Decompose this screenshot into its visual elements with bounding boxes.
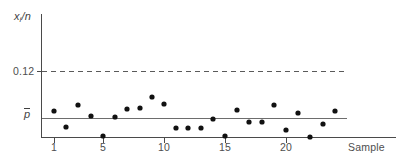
data-point [320,121,325,126]
data-point [161,101,166,106]
chart-canvas [0,0,404,164]
reference-lines-group [42,72,348,119]
data-point [63,124,68,129]
y-center-label-pbar: p [24,108,30,121]
data-point [185,125,190,130]
x-tick-label-10: 10 [158,141,170,153]
x-axis-title: Sample [348,141,385,153]
data-point [234,107,239,112]
x-tick-label-1: 1 [51,141,57,153]
data-point [124,106,129,111]
x-tick-label-20: 20 [280,141,292,153]
data-point [271,102,276,107]
x-axis-ticks [55,138,287,144]
data-point [222,133,227,138]
data-point [198,125,203,130]
y-axis-title-denominator: /n [22,10,31,22]
data-point [149,94,154,99]
data-point [173,125,178,130]
control-chart: xi/n 0.12 p 1 5 10 15 20 Sample [0,0,404,164]
x-tick-label-15: 15 [219,141,231,153]
data-point [295,110,300,115]
data-point [137,105,142,110]
data-points-group [51,94,337,139]
y-tick-label-0-12: 0.12 [13,65,34,77]
data-point [259,119,264,124]
data-point [246,119,251,124]
plot-surface: xi/n 0.12 p 1 5 10 15 20 Sample [0,0,404,164]
data-point [75,102,80,107]
data-point [307,134,312,139]
data-point [210,116,215,121]
pbar-symbol: p [24,108,30,121]
data-point [100,133,105,138]
data-point [283,127,288,132]
data-point [332,108,337,113]
data-point [112,114,117,119]
data-point [88,113,93,118]
x-tick-label-5: 5 [100,141,106,153]
y-axis-title: xi/n [14,10,31,24]
data-point [51,108,56,113]
